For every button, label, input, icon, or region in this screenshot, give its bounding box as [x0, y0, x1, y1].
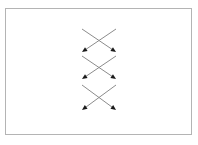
arrow-3-down-left-head-icon [82, 105, 88, 110]
arrow-1-down-right-shaft [82, 29, 112, 50]
arrow-1-down-left-head-icon [82, 47, 88, 52]
crossing-pair-2 [82, 56, 116, 79]
arrow-2-down-left-head-icon [82, 74, 88, 79]
crossing-pair-3 [82, 85, 116, 110]
arrow-3-down-left-shaft [86, 85, 116, 107]
arrow-1-down-right-head-icon [110, 47, 116, 52]
figure-root [0, 0, 198, 145]
arrow-3-down-right-shaft [82, 85, 112, 107]
arrow-layer [82, 29, 116, 110]
arrow-3-down-right-head-icon [110, 105, 116, 110]
arrow-2-down-left-shaft [86, 56, 116, 77]
crossing-pair-1 [82, 29, 116, 52]
arrow-2-down-right-head-icon [110, 74, 116, 79]
diagram-canvas [0, 0, 198, 145]
arrow-2-down-right-shaft [82, 56, 112, 77]
arrow-1-down-left-shaft [86, 29, 116, 50]
